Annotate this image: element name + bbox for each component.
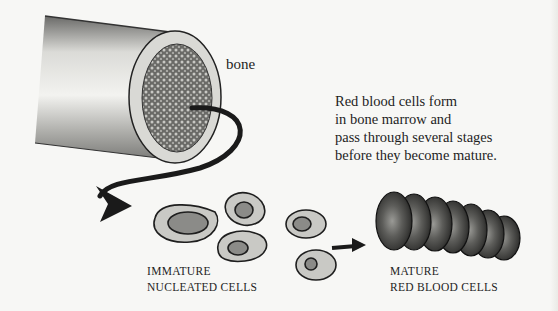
bone-cross-section [129,31,221,163]
immature-cells-caption: IMMATURE NUCLEATED CELLS [147,263,257,295]
diagram: bone Red blood cells form in bone marrow… [0,0,558,311]
mature-cells-caption: MATURE RED BLOOD CELLS [390,263,498,295]
page-edge-shadow [550,0,558,311]
description-text: Red blood cells form in bone marrow and … [335,92,497,164]
bone-label: bone [226,56,255,73]
mature-cells [376,192,520,260]
straight-arrow [332,238,366,252]
